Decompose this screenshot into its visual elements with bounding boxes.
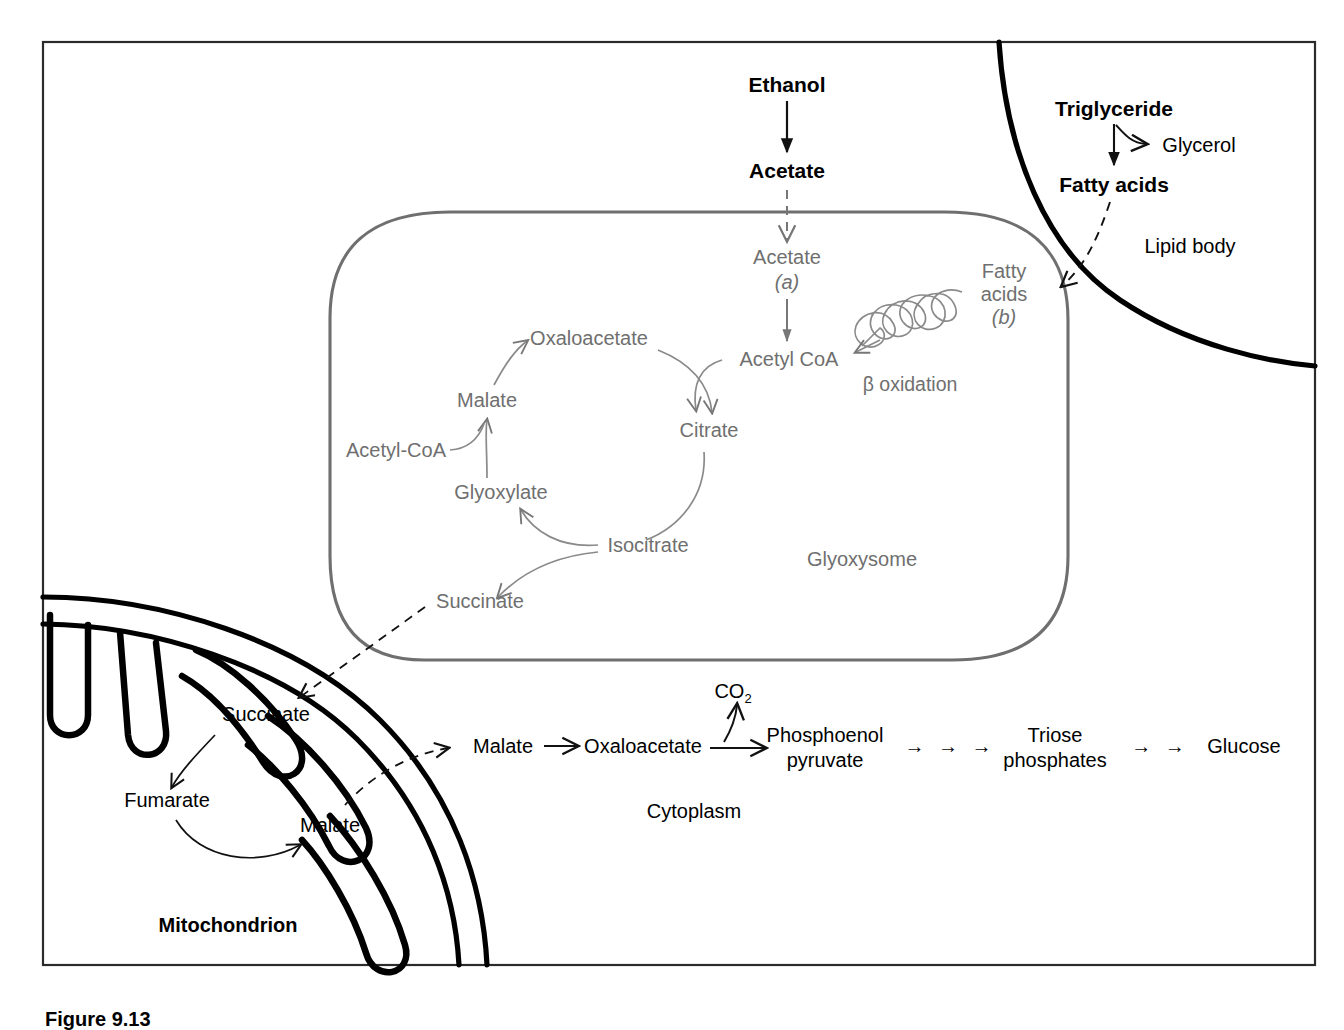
label-acetyl-coa: Acetyl CoA — [740, 348, 839, 370]
figure-canvas: Ethanol Acetate Triglyceride Glycerol Fa… — [0, 0, 1344, 1030]
label-isocitrate: Isocitrate — [607, 534, 688, 556]
arrow-acetyl-coa-to-citrate — [695, 360, 722, 410]
arrow-succinate-to-fumarate — [172, 735, 215, 787]
label-triose-line2: phosphates — [1003, 749, 1106, 771]
arrow-succinate-to-mitochondrion — [300, 607, 425, 697]
crista-1 — [50, 615, 88, 735]
label-co2: CO2 — [714, 680, 751, 707]
label-acetate-cytosol: Acetate — [749, 159, 825, 183]
label-beta-oxidation: β oxidation — [863, 374, 958, 396]
arrow-malate-out-of-mitochondrion — [345, 748, 448, 805]
arrow-acetylcoa-cycle-to-malate — [450, 424, 484, 450]
label-glycerol: Glycerol — [1162, 134, 1235, 156]
arrow-oxaloacetate-to-citrate — [658, 350, 712, 412]
label-succinate-mitochondrion: Succinate — [222, 703, 310, 725]
arrow-glyoxylate-to-malate — [486, 420, 487, 478]
arrow-oxaloacetate-to-co2 — [724, 705, 737, 742]
label-citrate: Citrate — [680, 419, 739, 441]
arrow-malate-to-oxaloacetate — [494, 341, 527, 385]
label-pep-line1: Phosphoenol — [767, 724, 884, 746]
label-succinate-glyoxysome: Succinate — [436, 590, 524, 612]
label-glyoxylate: Glyoxylate — [454, 481, 547, 503]
label-acetate-glyoxysome: Acetate — [753, 246, 821, 268]
label-malate-cytoplasm: Malate — [473, 735, 533, 757]
label-malate-mitochondrion: Malate — [300, 814, 360, 836]
label-cytoplasm: Cytoplasm — [647, 800, 741, 822]
label-fatty-acids-glyoxysome-line2: acids — [981, 283, 1028, 305]
label-acetate-tag: (a) — [775, 271, 799, 293]
label-pep-line2: pyruvate — [787, 749, 864, 771]
mitochondrion-outer-membrane — [43, 597, 487, 965]
diagram-vector-layer — [0, 0, 1344, 1030]
label-oxaloacetate: Oxaloacetate — [530, 327, 648, 349]
label-oxaloacetate-cytoplasm: Oxaloacetate — [584, 735, 702, 757]
label-fatty-acids-lipid-body: Fatty acids — [1059, 173, 1169, 197]
label-malate-glyoxysome: Malate — [457, 389, 517, 411]
arrow-triglyceride-to-glycerol — [1116, 125, 1146, 144]
label-fumarate: Fumarate — [124, 789, 210, 811]
label-fatty-acids-glyoxysome-line1: Fatty — [982, 260, 1026, 282]
co2-text: CO — [714, 680, 744, 702]
label-lipid-body: Lipid body — [1144, 235, 1235, 257]
arrow-citrate-to-isocitrate — [646, 452, 704, 540]
label-triglyceride: Triglyceride — [1055, 97, 1173, 121]
figure-caption: Figure 9.13 — [45, 1008, 151, 1030]
label-acetyl-coa-cycle: Acetyl-CoA — [346, 439, 446, 461]
label-fatty-acids-tag: (b) — [992, 306, 1016, 328]
label-glucose: Glucose — [1207, 735, 1280, 757]
beta-oxidation-spiral — [855, 290, 962, 347]
crista-5 — [302, 816, 406, 972]
arrows-pep-to-triose: → → → — [904, 735, 995, 757]
crista-2 — [120, 632, 166, 755]
co2-subscript: 2 — [744, 691, 751, 706]
label-triose-line1: Triose — [1028, 724, 1083, 746]
label-ethanol: Ethanol — [749, 73, 826, 97]
label-mitochondrion: Mitochondrion — [159, 914, 298, 936]
lipid-body-membrane — [999, 42, 1315, 366]
arrow-fumarate-to-malate — [176, 820, 300, 858]
label-glyoxysome: Glyoxysome — [807, 548, 917, 570]
arrows-triose-to-glucose: → → — [1131, 735, 1189, 757]
arrow-isocitrate-to-glyoxylate — [521, 510, 598, 545]
